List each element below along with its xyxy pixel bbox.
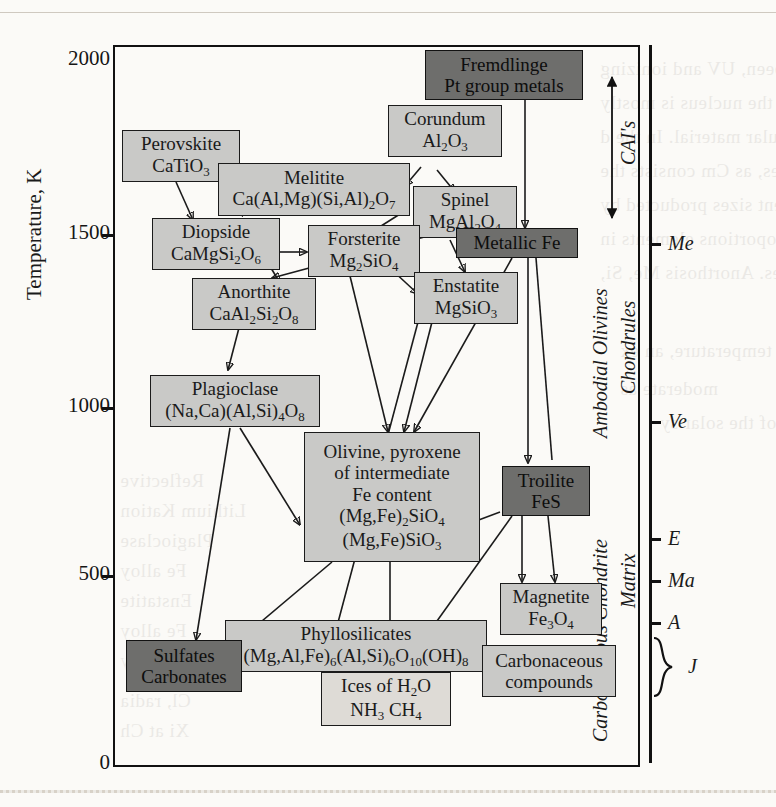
sulfates-line1: Sulfates bbox=[153, 645, 214, 666]
right-tick-e bbox=[649, 538, 661, 541]
troilite-formula: FeS bbox=[531, 491, 561, 512]
olivine-formula1: (Mg,Fe)2SiO4 bbox=[339, 505, 444, 529]
cais-double-arrow-icon bbox=[600, 55, 624, 240]
phyllosilicates-name: Phyllosilicates bbox=[301, 623, 412, 644]
magnetite-name: Magnetite bbox=[512, 586, 589, 607]
right-label-ma: Ma bbox=[668, 569, 695, 592]
enstatite-name: Enstatite bbox=[433, 275, 499, 296]
y-tick-500 bbox=[102, 575, 113, 578]
node-box-corundum[interactable]: Corundum Al2O3 bbox=[388, 105, 502, 157]
melitite-name: Melitite bbox=[284, 167, 344, 188]
node-box-phyllosilicates[interactable]: Phyllosilicates (Mg,Al,Fe)6(Al,Si)6O10(O… bbox=[225, 620, 487, 672]
node-box-olivine-pyroxene[interactable]: Olivine, pyroxene of intermediate Fe con… bbox=[304, 432, 480, 562]
troilite-name: Troilite bbox=[518, 470, 574, 491]
right-label-me: Me bbox=[668, 232, 694, 255]
anorthite-name: Anorthite bbox=[218, 281, 291, 302]
carbonaceous-line2: compounds bbox=[505, 671, 593, 692]
olivine-line3: Fe content bbox=[352, 484, 432, 505]
node-box-enstatite[interactable]: Enstatite MgSiO3 bbox=[414, 272, 518, 324]
right-label-e: E bbox=[668, 527, 680, 550]
right-tick-a bbox=[649, 622, 661, 625]
y-tick-label-500: 500 bbox=[0, 561, 110, 586]
olivine-line2: of intermediate bbox=[334, 462, 450, 483]
spinel-name: Spinel bbox=[441, 189, 490, 210]
melitite-formula: Ca(Al,Mg)(Si,Al)2O7 bbox=[233, 188, 396, 212]
node-box-fremdlinge[interactable]: Fremdlinge Pt group metals bbox=[425, 50, 583, 100]
y-tick-label-2000: 2000 bbox=[0, 46, 110, 71]
y-tick-1000 bbox=[102, 407, 113, 410]
node-box-sulfates-carbonates[interactable]: Sulfates Carbonates bbox=[126, 640, 242, 692]
sulfates-line2: Carbonates bbox=[141, 666, 226, 687]
olivine-formula2: (Mg,Fe)SiO3 bbox=[343, 529, 442, 553]
carbonaceous-line1: Carbonaceous bbox=[495, 650, 603, 671]
forsterite-formula: Mg2SiO4 bbox=[330, 250, 399, 274]
fremdlinge-name: Fremdlinge bbox=[460, 54, 548, 75]
ices-line2: NH3 CH4 bbox=[350, 699, 422, 723]
phyllosilicates-formula: (Mg,Al,Fe)6(Al,Si)6O10(OH)8 bbox=[244, 645, 469, 669]
right-label-j: J bbox=[688, 655, 697, 678]
bracket-label-carbonaceous-chondrite: Carbonaceous Chondrite bbox=[589, 539, 612, 742]
jupiter-brace-icon bbox=[652, 636, 686, 698]
metallic-fe-name: Metallic Fe bbox=[473, 232, 560, 253]
perovskite-formula: CaTiO3 bbox=[152, 155, 210, 179]
page-bottom-rule bbox=[0, 790, 776, 793]
node-box-metallic-fe[interactable]: Metallic Fe bbox=[456, 228, 578, 258]
node-box-plagioclase[interactable]: Plagioclase (Na,Ca)(Al,Si)4O8 bbox=[150, 375, 320, 427]
y-tick-label-1500: 1500 bbox=[0, 220, 110, 245]
node-box-anorthite[interactable]: Anorthite CaAl2Si2O8 bbox=[192, 278, 316, 330]
forsterite-name: Forsterite bbox=[328, 228, 401, 249]
corundum-formula: Al2O3 bbox=[422, 130, 468, 154]
plagioclase-name: Plagioclase bbox=[192, 378, 279, 399]
node-box-carbonaceous-compounds[interactable]: Carbonaceous compounds bbox=[482, 645, 616, 697]
y-tick-label-0: 0 bbox=[0, 750, 110, 775]
plagioclase-formula: (Na,Ca)(Al,Si)4O8 bbox=[165, 400, 305, 424]
right-label-a: A bbox=[668, 611, 680, 634]
node-box-magnetite[interactable]: Magnetite Fe3O4 bbox=[500, 583, 602, 635]
diopside-name: Diopside bbox=[182, 221, 251, 242]
page-top-rule bbox=[0, 12, 776, 13]
corundum-name: Corundum bbox=[404, 108, 485, 129]
right-tick-me bbox=[649, 243, 661, 246]
bracket-label-chondrules: Chondrules bbox=[617, 301, 640, 394]
bracket-label-ambodial-olivines: Ambodial Olivines bbox=[589, 289, 612, 438]
bracket-label-matrix: Matrix bbox=[617, 554, 640, 608]
right-tick-ma bbox=[649, 580, 661, 583]
y-tick-label-1000: 1000 bbox=[0, 393, 110, 418]
magnetite-formula: Fe3O4 bbox=[528, 608, 574, 632]
node-box-troilite[interactable]: Troilite FeS bbox=[502, 466, 590, 516]
ices-line1: Ices of H2O bbox=[341, 675, 431, 699]
node-box-melitite[interactable]: Melitite Ca(Al,Mg)(Si,Al)2O7 bbox=[218, 163, 410, 216]
node-box-forsterite[interactable]: Forsterite Mg2SiO4 bbox=[308, 225, 420, 277]
node-box-ices[interactable]: Ices of H2O NH3 CH4 bbox=[321, 672, 451, 726]
fremdlinge-formula: Pt group metals bbox=[444, 75, 563, 96]
right-tick-ve bbox=[649, 421, 661, 424]
diopside-formula: CaMgSi2O6 bbox=[171, 243, 261, 267]
anorthite-formula: CaAl2Si2O8 bbox=[209, 303, 298, 327]
node-box-diopside[interactable]: Diopside CaMgSi2O6 bbox=[152, 218, 280, 270]
right-label-ve: Ve bbox=[668, 410, 687, 433]
y-tick-1500 bbox=[102, 234, 113, 237]
olivine-line1: Olivine, pyroxene bbox=[323, 441, 460, 462]
perovskite-name: Perovskite bbox=[141, 133, 221, 154]
enstatite-formula: MgSiO3 bbox=[435, 297, 497, 321]
